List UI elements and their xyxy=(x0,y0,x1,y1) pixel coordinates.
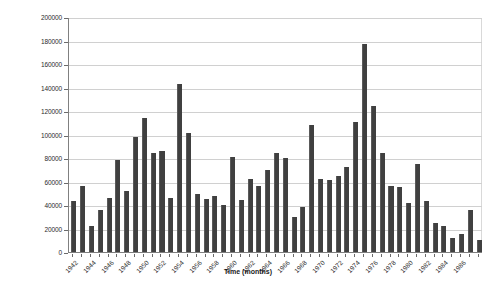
bar xyxy=(186,133,191,252)
bar xyxy=(397,187,402,252)
bar xyxy=(133,137,138,252)
x-tick-mark xyxy=(372,254,373,257)
bar xyxy=(124,191,129,252)
x-tick-mark xyxy=(301,254,302,257)
x-tick-mark xyxy=(416,254,417,257)
y-tick-mark xyxy=(64,18,68,19)
bar xyxy=(344,167,349,252)
x-tick-mark xyxy=(363,254,364,257)
x-tick-mark xyxy=(337,254,338,257)
x-tick-mark xyxy=(460,254,461,257)
bar xyxy=(80,186,85,252)
x-tick-mark xyxy=(275,254,276,257)
x-tick-mark xyxy=(213,254,214,257)
bar xyxy=(115,160,120,252)
x-tick-mark xyxy=(134,254,135,257)
x-tick-mark xyxy=(169,254,170,257)
bar xyxy=(406,203,411,252)
bar xyxy=(274,153,279,252)
x-tick-mark xyxy=(266,254,267,257)
bar xyxy=(195,194,200,252)
bar xyxy=(89,226,94,252)
x-tick-mark xyxy=(390,254,391,257)
x-tick-mark xyxy=(407,254,408,257)
y-tick-label: 200000 xyxy=(41,14,62,21)
x-tick-mark xyxy=(434,254,435,257)
x-tick-mark xyxy=(249,254,250,257)
y-tick-mark xyxy=(64,112,68,113)
bar xyxy=(300,207,305,252)
y-tick-label: 180000 xyxy=(41,38,62,45)
x-tick-mark xyxy=(398,254,399,257)
bar xyxy=(265,170,270,252)
bar xyxy=(450,238,455,252)
x-tick-mark xyxy=(310,254,311,257)
bar xyxy=(151,153,156,252)
y-tick-mark xyxy=(64,253,68,254)
bar xyxy=(256,186,261,252)
plot-area xyxy=(68,18,482,253)
y-tick-mark xyxy=(64,230,68,231)
bar xyxy=(221,205,226,252)
x-axis-title: Time (months) xyxy=(0,268,496,275)
x-tick-mark xyxy=(90,254,91,257)
bar xyxy=(283,158,288,252)
y-tick-mark xyxy=(64,206,68,207)
x-tick-mark xyxy=(469,254,470,257)
x-tick-mark xyxy=(160,254,161,257)
bar xyxy=(388,186,393,252)
x-tick-mark xyxy=(178,254,179,257)
y-tick-label: 100000 xyxy=(41,132,62,139)
y-tick-label: 140000 xyxy=(41,85,62,92)
x-tick-mark xyxy=(293,254,294,257)
bar xyxy=(107,198,112,252)
x-tick-mark xyxy=(72,254,73,257)
y-tick-label: 0 xyxy=(58,249,62,256)
x-tick-mark xyxy=(81,254,82,257)
bar xyxy=(168,198,173,252)
x-tick-mark xyxy=(451,254,452,257)
y-tick-mark xyxy=(64,159,68,160)
bar xyxy=(71,201,76,252)
bar xyxy=(415,164,420,252)
x-tick-mark xyxy=(196,254,197,257)
x-tick-mark xyxy=(240,254,241,257)
x-tick-mark xyxy=(205,254,206,257)
y-tick-mark xyxy=(64,65,68,66)
y-tick-mark xyxy=(64,89,68,90)
bar xyxy=(441,226,446,252)
bar xyxy=(362,44,367,252)
y-tick-label: 20000 xyxy=(44,226,62,233)
bar xyxy=(212,196,217,252)
x-tick-mark xyxy=(222,254,223,257)
y-tick-label: 60000 xyxy=(44,179,62,186)
x-tick-mark xyxy=(231,254,232,257)
x-tick-mark xyxy=(345,254,346,257)
x-tick-mark xyxy=(319,254,320,257)
bars-layer xyxy=(69,18,482,252)
x-tick-mark xyxy=(125,254,126,257)
y-tick-label: 160000 xyxy=(41,61,62,68)
bar xyxy=(353,122,358,252)
bar xyxy=(424,201,429,252)
bar xyxy=(468,210,473,252)
y-tick-label: 120000 xyxy=(41,108,62,115)
bar xyxy=(230,157,235,252)
x-tick-mark xyxy=(442,254,443,257)
x-tick-mark xyxy=(284,254,285,257)
bar xyxy=(327,180,332,252)
x-tick-mark xyxy=(354,254,355,257)
bar xyxy=(459,234,464,252)
x-tick-mark xyxy=(478,254,479,257)
x-tick-mark xyxy=(108,254,109,257)
x-tick-mark xyxy=(116,254,117,257)
bar xyxy=(159,151,164,252)
bar xyxy=(309,125,314,252)
bar xyxy=(380,153,385,252)
bar xyxy=(239,200,244,252)
bar-chart: 0200004000060000800001000001200001400001… xyxy=(0,0,496,301)
x-tick-mark xyxy=(143,254,144,257)
y-tick-mark xyxy=(64,136,68,137)
bar xyxy=(248,179,253,252)
bar xyxy=(336,176,341,252)
